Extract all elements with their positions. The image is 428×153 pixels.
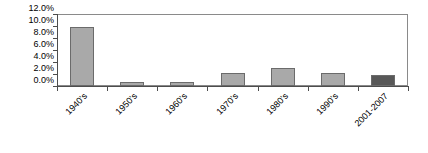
x-axis-tick-mark (408, 87, 409, 91)
x-axis-tick-label: 1960's (140, 91, 189, 140)
y-axis-labels: 0.0%2.0%4.0%6.0%8.0%10.0%12.0% (0, 8, 54, 92)
x-axis-tick-label: 1940's (40, 91, 89, 140)
x-axis-tick-label: 1990's (290, 91, 339, 140)
y-axis-tick-label: 4.0% (0, 52, 54, 61)
x-axis-tick-label: 2001-2007 (340, 91, 389, 140)
x-axis-tick-label: 1970's (190, 91, 239, 140)
y-axis-tick-label: 6.0% (0, 40, 54, 49)
bar (70, 27, 94, 86)
bar (221, 73, 245, 86)
bar-series (57, 14, 408, 86)
y-axis-tick-label: 2.0% (0, 64, 54, 73)
bar (321, 73, 345, 86)
y-axis-tick-label: 8.0% (0, 28, 54, 37)
y-axis-tick-label: 10.0% (0, 16, 54, 25)
x-axis-labels: 1940's1950's1960's1970's1980's1990's2001… (57, 91, 408, 153)
x-axis-tick-label: 1980's (240, 91, 289, 140)
bar (371, 75, 395, 86)
y-axis-tick-label: 12.0% (0, 4, 54, 13)
y-axis-tick-label: 0.0% (0, 76, 54, 85)
bar (170, 82, 194, 86)
bar (120, 82, 144, 86)
x-axis-tick-label: 1950's (90, 91, 139, 140)
bar-chart: 0.0%2.0%4.0%6.0%8.0%10.0%12.0% 1940's195… (0, 0, 428, 153)
bar (271, 68, 295, 86)
x-axis-line (57, 86, 409, 87)
